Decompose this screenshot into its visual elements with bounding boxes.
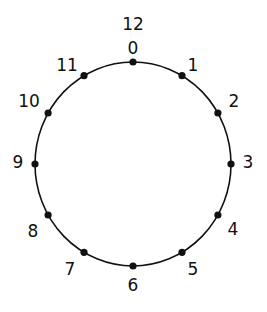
- point-label-8: 8: [28, 221, 39, 241]
- point-label-2: 2: [229, 91, 240, 111]
- point-label-10: 10: [18, 91, 40, 111]
- point-label-9: 9: [13, 152, 24, 172]
- point-label-3: 3: [243, 152, 254, 172]
- point-label-4: 4: [228, 219, 239, 239]
- point-dot-8: [45, 211, 52, 218]
- point-dot-1: [178, 72, 185, 79]
- point-label-5: 5: [188, 259, 199, 279]
- point-dot-7: [80, 249, 87, 256]
- cycle-circle: [35, 62, 231, 266]
- point-label-11: 11: [56, 55, 78, 75]
- point-dot-6: [129, 262, 136, 269]
- label-12: 12: [122, 14, 144, 34]
- point-dot-2: [214, 109, 221, 116]
- point-dot-3: [227, 160, 234, 167]
- point-dot-10: [45, 109, 52, 116]
- point-dot-11: [80, 72, 87, 79]
- clock-diagram: 12 01234567891011: [0, 0, 267, 312]
- point-dot-9: [31, 160, 38, 167]
- point-labels: 01234567891011: [13, 38, 254, 295]
- point-dot-0: [129, 58, 136, 65]
- point-label-6: 6: [128, 275, 139, 295]
- point-label-7: 7: [65, 259, 76, 279]
- point-label-0: 0: [128, 38, 139, 58]
- point-markers: [31, 58, 234, 269]
- point-label-1: 1: [188, 55, 199, 75]
- point-dot-5: [178, 249, 185, 256]
- point-dot-4: [214, 211, 221, 218]
